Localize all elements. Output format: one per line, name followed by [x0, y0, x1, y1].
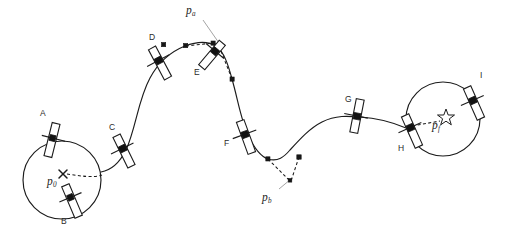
robot-icon-I — [455, 83, 492, 124]
pa-base: p — [186, 4, 192, 16]
pb-label: pb — [262, 191, 271, 203]
pa-sub: a — [192, 10, 196, 18]
robot-icon-B — [54, 181, 89, 222]
waypoint-label-H: H — [398, 143, 404, 153]
robot-icon-C — [105, 130, 142, 172]
robot-icon-A — [37, 121, 69, 160]
control-point — [162, 43, 166, 47]
waypoint-label-G: G — [345, 94, 352, 104]
pa-leader-line — [203, 20, 219, 43]
goal-pose-sub: f — [438, 125, 440, 133]
pb-base: p — [262, 191, 268, 203]
control-point — [230, 77, 234, 81]
start-pose-base: p — [47, 175, 53, 187]
pb-tangent-right-dashed — [291, 157, 299, 181]
control-point — [297, 155, 301, 159]
waypoint-label-B: B — [61, 216, 67, 226]
waypoint-label-E: E — [194, 67, 200, 77]
x-marker — [59, 170, 67, 178]
control-point — [184, 44, 188, 48]
waypoint-label-D: D — [149, 32, 155, 42]
trajectory-diagram: A B C D E F G H I p0 pa pb pf — [0, 0, 514, 239]
start-pose-sub: 0 — [53, 181, 57, 189]
pb-tangent-left-dashed — [268, 159, 290, 181]
control-point — [288, 179, 292, 183]
waypoint-label-C: C — [109, 122, 115, 132]
waypoint-label-I: I — [480, 70, 483, 80]
control-point — [266, 157, 270, 161]
goal-pose-label: pf — [432, 119, 440, 131]
robot-icon-D — [141, 42, 179, 84]
control-point — [211, 41, 215, 45]
start-pose-label: p0 — [47, 175, 56, 187]
start-radius-dashed — [67, 174, 102, 177]
pa-label: pa — [186, 4, 195, 16]
goal-pose-base: p — [432, 119, 438, 131]
star-marker — [438, 109, 455, 125]
pb-sub: b — [268, 197, 272, 205]
waypoint-label-F: F — [224, 138, 229, 148]
start-circle — [23, 141, 101, 219]
waypoint-label-A: A — [40, 108, 46, 118]
